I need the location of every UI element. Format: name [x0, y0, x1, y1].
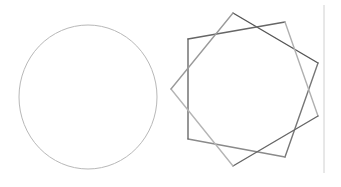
star-edge-4 [188, 22, 285, 39]
star-edge-7 [171, 89, 233, 166]
star-edge-8 [171, 13, 233, 89]
star-polygon-shape [171, 13, 318, 166]
star-edge-2 [188, 139, 285, 157]
circle-shape [19, 25, 157, 169]
star-edge-5 [285, 22, 318, 116]
star-edge-0 [233, 13, 318, 63]
star-edge-6 [233, 116, 318, 166]
figure-canvas: circle nine-vertex star polygon vertical… [0, 0, 341, 187]
star-edge-1 [285, 63, 318, 157]
figure-svg [0, 0, 341, 187]
